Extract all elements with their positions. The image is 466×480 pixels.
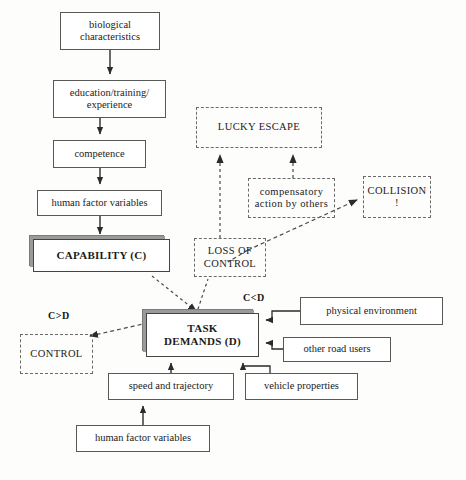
diagram-canvas: biological characteristics education/tra… xyxy=(0,0,466,480)
node-line-1: education/training/ xyxy=(70,87,149,98)
node-line-2: action by others xyxy=(255,198,328,209)
edge-physical-environment-to-task-demands xyxy=(266,311,300,320)
node-vehicle-properties[interactable]: vehicle properties xyxy=(245,373,358,400)
node-competence[interactable]: competence xyxy=(53,140,146,168)
node-speed-and-trajectory[interactable]: speed and trajectory xyxy=(108,373,234,400)
node-line-1: compensatory xyxy=(260,186,324,197)
node-label: CONTROL xyxy=(30,348,82,360)
node-line-1: LOSS OF xyxy=(208,245,253,256)
node-lucky-escape[interactable]: LUCKY ESCAPE xyxy=(196,107,322,148)
node-label: speed and trajectory xyxy=(129,380,214,392)
node-label: competence xyxy=(74,148,124,160)
node-line-2: ! xyxy=(395,197,399,208)
node-line-2: DEMANDS (D) xyxy=(164,335,241,347)
annotation-c-less-than-d: C<D xyxy=(243,292,265,303)
node-human-factor-variables-top[interactable]: human factor variables xyxy=(37,190,162,216)
node-human-factor-variables-bottom[interactable]: human factor variables xyxy=(76,425,210,452)
node-control[interactable]: CONTROL xyxy=(20,334,93,374)
node-collision[interactable]: COLLISION ! xyxy=(363,176,431,218)
node-label: other road users xyxy=(303,343,370,355)
edge-task-demands-to-loss-of-control xyxy=(196,279,208,315)
node-physical-environment[interactable]: physical environment xyxy=(300,297,443,325)
node-capability[interactable]: CAPABILITY (C) xyxy=(33,239,170,272)
annotation-c-greater-than-d: C>D xyxy=(48,310,70,321)
node-line-2: characteristics xyxy=(80,31,140,42)
node-label: human factor variables xyxy=(51,197,147,209)
node-loss-of-control[interactable]: LOSS OF CONTROL xyxy=(194,238,266,277)
node-label: human factor variables xyxy=(95,432,191,444)
edge-vehicle-properties-to-task-demands xyxy=(243,363,270,373)
node-other-road-users[interactable]: other road users xyxy=(283,337,391,362)
node-biological-characteristics[interactable]: biological characteristics xyxy=(60,12,160,50)
edge-other-road-users-to-task-demands xyxy=(266,343,283,349)
node-line-1: TASK xyxy=(187,322,217,334)
node-education-training-experience[interactable]: education/training/ experience xyxy=(53,80,166,118)
node-line-2: experience xyxy=(87,99,132,110)
node-label: CAPABILITY (C) xyxy=(56,249,146,262)
node-label: vehicle properties xyxy=(264,380,339,392)
edge-capability-to-task-demands xyxy=(152,276,196,311)
node-line-2: CONTROL xyxy=(204,258,256,269)
node-task-demands[interactable]: TASK DEMANDS (D) xyxy=(146,313,259,357)
node-line-1: biological xyxy=(89,19,131,30)
node-line-1: COLLISION xyxy=(367,185,426,196)
node-label: physical environment xyxy=(326,305,417,317)
node-label: LUCKY ESCAPE xyxy=(218,121,300,133)
node-compensatory-action-by-others[interactable]: compensatory action by others xyxy=(248,178,335,218)
